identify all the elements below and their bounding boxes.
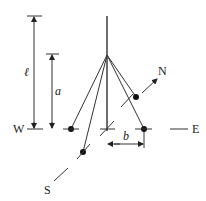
label-east: E: [192, 122, 199, 136]
label-b: b: [123, 129, 129, 143]
label-length: ℓ: [24, 65, 29, 79]
bob-north: [133, 94, 139, 100]
north-arrow: [142, 79, 157, 93]
pendulum-diagram: ℓ a b W E N S: [0, 0, 206, 201]
label-west: W: [13, 122, 25, 136]
label-north: N: [158, 64, 167, 78]
north-south-axis: [54, 94, 133, 181]
label-a: a: [55, 84, 61, 98]
label-south: S: [44, 183, 51, 197]
